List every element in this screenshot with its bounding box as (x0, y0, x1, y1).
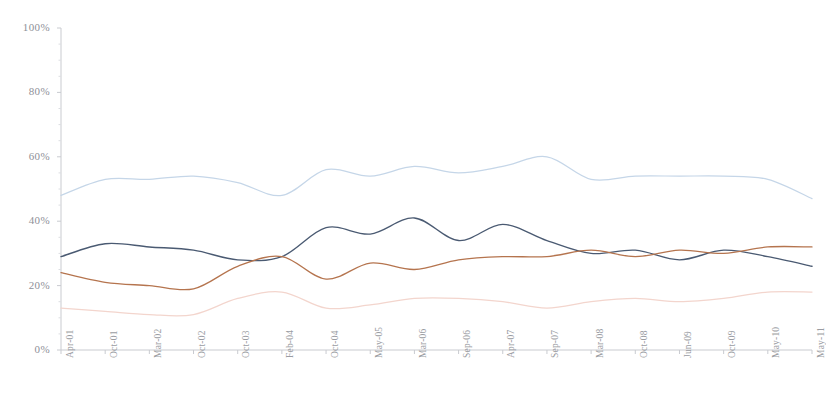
x-axis-tick-label: Oct-01 (109, 330, 119, 358)
x-axis-tick-label: Apr-07 (506, 330, 516, 358)
x-axis-tick-label: May-11 (816, 327, 826, 358)
x-axis-tick-label: Mar-08 (595, 328, 605, 358)
x-axis-tick-label: Oct-02 (197, 330, 207, 358)
x-axis-tick-label: Sep-07 (550, 330, 560, 358)
x-axis-tick-label: Oct-04 (330, 330, 340, 358)
x-axis-tick-label: Mar-06 (418, 328, 428, 358)
x-axis-tick-label: May-10 (771, 327, 781, 358)
x-axis-tick-label: Oct-03 (241, 330, 251, 358)
x-axis-tick-label: Jun-09 (683, 331, 693, 358)
x-axis-tick-label: Oct-09 (727, 330, 737, 358)
x-axis-tick-label: Sep-06 (462, 330, 472, 358)
x-axis-tick-label: May-05 (374, 327, 384, 358)
x-axis-tick-label: Apr-01 (65, 330, 75, 358)
x-axis-tick-label: Oct-08 (639, 330, 649, 358)
x-axis-tick-label: Mar-02 (153, 328, 163, 358)
x-axis-tick-label: Feb-04 (285, 330, 295, 358)
